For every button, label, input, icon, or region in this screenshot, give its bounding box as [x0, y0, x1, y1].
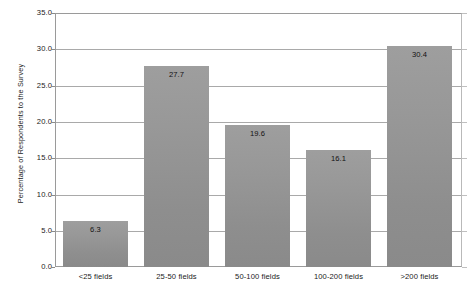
gridline-stub — [462, 13, 467, 14]
bar-25-50-fields[interactable]: 27.7 — [144, 66, 209, 267]
bar-slot: 16.1 — [306, 13, 371, 267]
x-axis-tick-labels: <25 fields 25-50 fields 50-100 fields 10… — [55, 272, 462, 286]
gridline-stub — [462, 195, 467, 196]
y-tick-label: 30.0 — [20, 45, 52, 53]
gridline-stub — [462, 158, 467, 159]
y-tick-label: 20.0 — [20, 118, 52, 126]
bar-lt25-fields[interactable]: 6.3 — [63, 221, 128, 267]
gridline-stub — [462, 86, 467, 87]
bar-100-200-fields[interactable]: 16.1 — [306, 150, 371, 267]
bar-value-label: 27.7 — [144, 70, 209, 79]
y-tick-label: 25.0 — [20, 82, 52, 90]
x-label-lt25-fields: <25 fields — [55, 272, 136, 282]
gridline-stub — [462, 267, 467, 268]
bar-slot: 19.6 — [225, 13, 290, 267]
bar-slot: 27.7 — [144, 13, 209, 267]
y-tick-label: 0.0 — [20, 263, 52, 271]
bar-slot: 30.4 — [387, 13, 452, 267]
x-label-25-50-fields: 25-50 fields — [136, 272, 217, 282]
bar-50-100-fields[interactable]: 19.6 — [225, 125, 290, 267]
gridline-stub — [462, 49, 467, 50]
y-tick-label: 10.0 — [20, 191, 52, 199]
y-tick-label: 15.0 — [20, 154, 52, 162]
gridline-stub — [462, 231, 467, 232]
bar-slot: 6.3 — [63, 13, 128, 267]
bar-chart: Percentage of Respondents to the Survey … — [0, 0, 467, 293]
bar-value-label: 19.6 — [225, 129, 290, 138]
x-label-100-200-fields: 100-200 fields — [298, 272, 379, 282]
y-tick-label: 5.0 — [20, 227, 52, 235]
bar-value-label: 16.1 — [306, 154, 371, 163]
gridline-stub — [462, 122, 467, 123]
x-label-gt200-fields: >200 fields — [379, 272, 460, 282]
y-tick-label: 35.0 — [20, 9, 52, 17]
bars-layer: 6.3 27.7 19.6 16.1 30.4 — [55, 13, 462, 267]
y-tick-mark — [51, 267, 55, 268]
y-axis-tick-labels: 35.0 30.0 25.0 20.0 15.0 10.0 5.0 0.0 — [20, 0, 52, 293]
x-label-50-100-fields: 50-100 fields — [217, 272, 298, 282]
bar-value-label: 30.4 — [387, 50, 452, 59]
bar-value-label: 6.3 — [63, 225, 128, 234]
bar-gt200-fields[interactable]: 30.4 — [387, 46, 452, 267]
